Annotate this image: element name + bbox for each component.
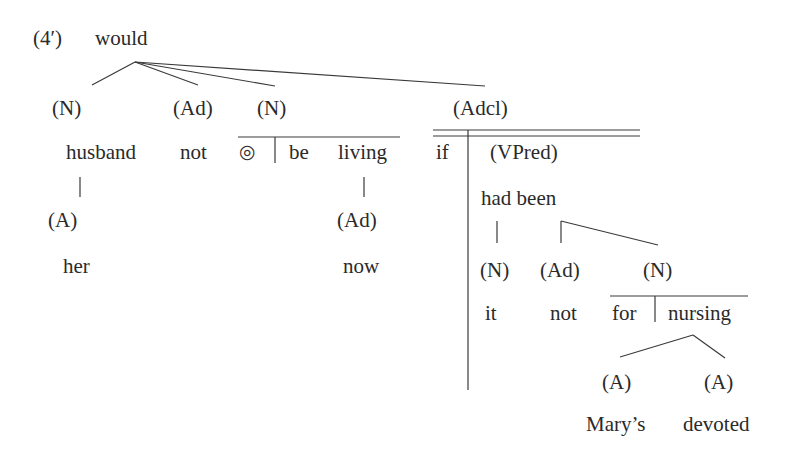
syntax-tree-diagram: (4′) would (N) (Ad) (N) (Adcl) husband n… bbox=[0, 0, 804, 460]
tree-lines bbox=[0, 0, 804, 460]
